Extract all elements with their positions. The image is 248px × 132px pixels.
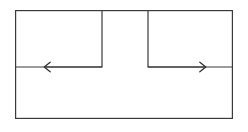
diagram-canvas	[0, 0, 248, 132]
diagram-svg	[0, 0, 248, 132]
